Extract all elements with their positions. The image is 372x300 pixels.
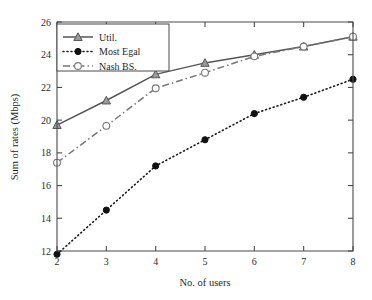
data-point-marker bbox=[202, 137, 208, 143]
x-tick-label: 8 bbox=[351, 256, 356, 267]
data-point-marker bbox=[251, 53, 258, 60]
data-point-marker bbox=[103, 122, 110, 129]
legend-label: Most Egal bbox=[99, 46, 141, 57]
y-tick-label: 16 bbox=[41, 180, 51, 191]
y-tick-label: 12 bbox=[41, 246, 51, 257]
y-tick-label: 14 bbox=[41, 213, 51, 224]
data-point-marker bbox=[152, 85, 159, 92]
x-tick-label: 5 bbox=[203, 256, 208, 267]
data-point-marker bbox=[300, 43, 307, 50]
line-chart: 1214161820222426 2345678 No. of users Su… bbox=[0, 0, 372, 300]
y-tick-label: 22 bbox=[41, 82, 51, 93]
data-point-marker bbox=[251, 111, 257, 117]
data-point-marker bbox=[54, 251, 60, 257]
x-tick-label: 4 bbox=[153, 256, 158, 267]
legend-label: Nash BS. bbox=[99, 61, 137, 72]
data-point-marker bbox=[75, 48, 81, 54]
y-tick-label: 26 bbox=[41, 17, 51, 28]
y-axis-label: Sum of rates (Mbps) bbox=[9, 93, 21, 180]
x-tick-label: 6 bbox=[252, 256, 257, 267]
x-tick-label: 7 bbox=[301, 256, 306, 267]
data-point-marker bbox=[103, 207, 109, 213]
data-point-marker bbox=[153, 163, 159, 169]
chart-figure: 1214161820222426 2345678 No. of users Su… bbox=[0, 0, 372, 300]
x-tick-label: 3 bbox=[104, 256, 109, 267]
x-axis-label: No. of users bbox=[179, 277, 230, 288]
data-point-marker bbox=[75, 63, 82, 70]
y-tick-label: 18 bbox=[41, 147, 51, 158]
data-point-marker bbox=[301, 94, 307, 100]
y-tick-label: 24 bbox=[41, 49, 51, 60]
chart-legend: Util.Most EgalNash BS. bbox=[57, 24, 169, 72]
y-tick-label: 20 bbox=[41, 115, 51, 126]
data-point-marker bbox=[202, 69, 209, 76]
legend-label: Util. bbox=[99, 32, 117, 43]
